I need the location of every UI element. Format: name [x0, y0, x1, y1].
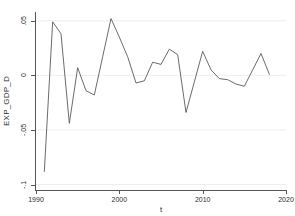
x-tick-mark-2 — [203, 190, 204, 194]
x-tick-label-2: 2010 — [195, 196, 211, 204]
x-tick-label-1: 2000 — [112, 196, 128, 204]
y-tick-label-1: 0 — [16, 71, 30, 79]
y-tick-label-3: -.1 — [16, 181, 30, 189]
x-tick-mark-1 — [119, 190, 120, 194]
y-tick-label-text-0: .05 — [20, 16, 27, 26]
y-tick-label-0: .05 — [16, 17, 30, 25]
y-tick-label-text-3: -.1 — [20, 180, 27, 188]
x-tick-mark-0 — [36, 190, 37, 194]
x-axis-title-text: t — [160, 205, 162, 214]
y-tick-label-text-1: 0 — [20, 73, 27, 77]
y-axis-title-text: EXP_GDP_D — [3, 76, 11, 126]
y-axis-title: EXP_GDP_D — [0, 12, 14, 190]
x-tick-label-0: 1990 — [28, 196, 44, 204]
y-tick-label-text-2: -.05 — [20, 124, 27, 136]
data-series-line — [44, 19, 269, 172]
x-tick-mark-3 — [286, 190, 287, 194]
chart-container: EXP_GDP_D .050-.05-.1 1990200020102020 t — [0, 0, 295, 216]
gridlines — [36, 21, 286, 185]
x-axis-line — [35, 190, 286, 191]
plot-area — [36, 12, 286, 190]
line-plot-svg — [36, 12, 286, 190]
x-tick-label-3: 2020 — [278, 196, 294, 204]
y-tick-label-2: -.05 — [16, 126, 30, 134]
x-axis-title: t — [36, 205, 286, 214]
